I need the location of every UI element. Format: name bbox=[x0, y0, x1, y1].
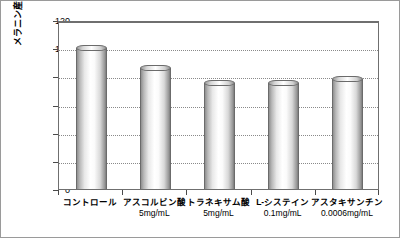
bar-cap bbox=[332, 76, 363, 82]
bar bbox=[332, 79, 363, 189]
bar-cap bbox=[140, 65, 171, 71]
plot-area bbox=[58, 21, 379, 190]
x-tick-label: アスタキサンチン0.0006mg/mL bbox=[301, 197, 393, 219]
x-tick-mark bbox=[378, 190, 379, 195]
chart-figure: メラニン産生率(%) 020406080100120 コントロールアスコルビン酸… bbox=[0, 0, 400, 238]
x-tick-mark bbox=[315, 190, 316, 195]
x-tick-mark bbox=[122, 190, 123, 195]
gridline-80 bbox=[59, 78, 378, 79]
bar-cap bbox=[268, 80, 299, 86]
x-tick-mark bbox=[186, 190, 187, 195]
bar bbox=[268, 83, 299, 189]
gridline-100 bbox=[59, 50, 378, 51]
x-tick-label-unit: 0.0006mg/mL bbox=[301, 208, 393, 219]
y-axis-title: メラニン産生率(%) bbox=[10, 0, 26, 67]
bar bbox=[204, 83, 235, 189]
bar bbox=[76, 48, 107, 189]
x-tick-label-name: アスタキサンチン bbox=[311, 197, 383, 207]
x-tick-mark bbox=[251, 190, 252, 195]
x-tick-mark bbox=[58, 190, 59, 195]
bar-cap bbox=[204, 80, 235, 86]
bar bbox=[140, 68, 171, 189]
bar-cap bbox=[76, 45, 107, 51]
gridline-120 bbox=[59, 22, 378, 23]
